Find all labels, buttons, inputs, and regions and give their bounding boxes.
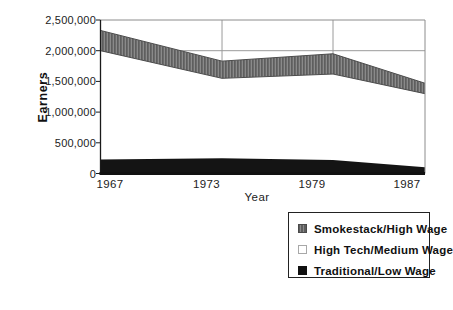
y-tick-label: 1,500,000 <box>18 74 96 88</box>
x-tick-label: 1967 <box>87 177 133 191</box>
x-tick-label: 1973 <box>183 177 229 191</box>
legend-item-traditional: Traditional/Low Wage <box>298 260 429 281</box>
y-tick-label: 500,000 <box>18 136 96 150</box>
white-square-icon <box>298 245 307 254</box>
y-axis-title: Earners <box>36 52 52 142</box>
legend-box: Smokestack/High Wage High Tech/Medium Wa… <box>288 212 430 278</box>
y-tick-label: 2,500,000 <box>18 13 96 27</box>
legend-item-hightech: High Tech/Medium Wage <box>298 239 429 260</box>
area-bands <box>101 30 426 173</box>
x-tick-label: 1987 <box>384 177 430 191</box>
black-square-icon <box>298 266 307 275</box>
y-tick-label: 1,000,000 <box>18 105 96 119</box>
legend-item-smokestack: Smokestack/High Wage <box>298 218 429 239</box>
legend-label: Smokestack/High Wage <box>314 223 447 235</box>
legend-label: High Tech/Medium Wage <box>314 244 453 256</box>
y-tick-label: 0 <box>18 167 96 181</box>
x-tick-label: 1979 <box>289 177 335 191</box>
y-tick-label: 2,000,000 <box>18 44 96 58</box>
gray-striped-square-icon <box>298 224 307 233</box>
legend-label: Traditional/Low Wage <box>314 265 436 277</box>
x-axis-title: Year <box>235 191 279 203</box>
